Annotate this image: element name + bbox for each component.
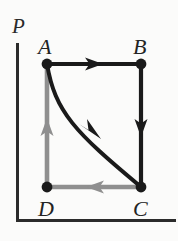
pv-diagram-figure: P xyxy=(0,0,178,241)
pv-diagram-canvas: P xyxy=(0,0,178,241)
vertex-dot-C xyxy=(136,182,147,193)
vertex-label-B: B xyxy=(133,34,146,59)
path-curve-A-to-C xyxy=(47,64,141,187)
vertex-label-D: D xyxy=(37,196,54,221)
vertex-dot-D xyxy=(42,182,53,193)
process-path-C-to-D xyxy=(47,181,141,194)
process-path-B-to-C xyxy=(135,64,148,187)
process-path-A-to-C-curve xyxy=(47,64,141,187)
vertex-dot-B xyxy=(136,59,147,70)
axes-group: P xyxy=(11,14,176,222)
axis-label-pressure: P xyxy=(11,14,25,38)
process-path-A-to-B xyxy=(47,58,141,71)
vertex-label-A: A xyxy=(36,34,52,59)
vertex-dots-group xyxy=(42,59,147,193)
vertex-dot-A xyxy=(42,59,53,70)
vertex-label-C: C xyxy=(133,196,148,221)
